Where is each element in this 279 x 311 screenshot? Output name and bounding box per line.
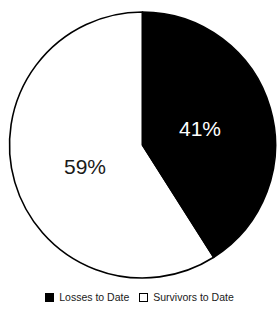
legend-label-survivors: Survivors to Date [153, 292, 234, 303]
legend-item-losses[interactable]: Losses to Date [45, 292, 129, 303]
pie-label-survivors: 59% [64, 156, 106, 177]
pie-chart-svg [0, 0, 279, 283]
filled-square-icon [45, 293, 54, 302]
outlined-square-icon [139, 293, 148, 302]
legend-item-survivors[interactable]: Survivors to Date [139, 292, 234, 303]
legend-label-losses: Losses to Date [59, 292, 129, 303]
pie-chart-figure: 41% 59% Losses to Date Survivors to Date [0, 0, 279, 311]
pie-chart-plot-area: 41% 59% [0, 0, 279, 283]
pie-label-losses: 41% [179, 118, 221, 139]
chart-legend: Losses to Date Survivors to Date [0, 288, 279, 306]
